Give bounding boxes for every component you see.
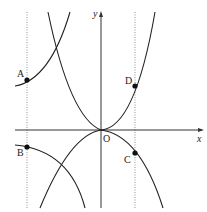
curve-lower-right-branch	[101, 130, 163, 208]
label-c: C	[124, 154, 131, 165]
curve-lower-far-left	[15, 145, 85, 208]
y-axis-label: y	[92, 8, 98, 19]
point-d	[132, 83, 137, 88]
x-axis-arrow-icon	[198, 128, 204, 132]
curve-upper-right-branch	[101, 12, 155, 130]
label-b: B	[17, 147, 24, 158]
point-a	[24, 77, 29, 82]
label-d: D	[125, 75, 132, 86]
curve-upper-left-branch	[48, 12, 101, 130]
point-c	[132, 150, 137, 155]
function-graph-figure: A B C D O x y	[0, 0, 207, 212]
origin-label: O	[103, 133, 110, 144]
curve-lower-left-branch	[40, 130, 101, 208]
label-a: A	[17, 68, 25, 79]
y-axis-arrow-icon	[99, 11, 103, 17]
graph-canvas: A B C D O x y	[0, 0, 207, 212]
point-b	[24, 144, 29, 149]
x-axis-label: x	[196, 133, 202, 144]
